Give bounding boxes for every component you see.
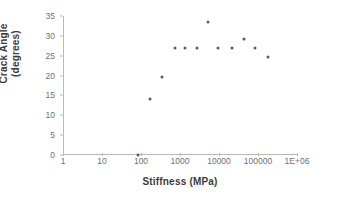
x-axis-tick-labels: 1101001000100001000001E+06 <box>0 157 338 173</box>
data-point <box>184 46 187 49</box>
data-point <box>243 38 246 41</box>
x-axis-title: Stiffness (MPa) <box>63 176 297 187</box>
scatter-chart-figure: 05101520253035 1101001000100001000001E+0… <box>0 0 338 207</box>
y-tick-mark <box>60 35 63 36</box>
x-tick-label: 10 <box>97 157 106 166</box>
x-tick-label: 1E+06 <box>285 157 310 166</box>
plot-area <box>63 16 297 155</box>
y-tick-label: 15 <box>46 91 55 100</box>
x-tick-label: 1 <box>61 157 66 166</box>
x-tick-label: 10000 <box>207 157 231 166</box>
x-tick-mark <box>297 153 298 156</box>
y-tick-label: 30 <box>46 32 55 41</box>
y-tick-label: 10 <box>46 111 55 120</box>
y-axis-title-line-1: Crack Angle <box>0 0 9 114</box>
x-tick-mark <box>258 153 259 156</box>
y-tick-mark <box>60 75 63 76</box>
x-tick-mark <box>141 153 142 156</box>
data-point <box>207 21 210 24</box>
data-point <box>230 46 233 49</box>
data-point <box>161 76 164 79</box>
x-tick-label: 1000 <box>171 157 190 166</box>
y-tick-label: 35 <box>46 12 55 21</box>
x-tick-label: 100 <box>134 157 148 166</box>
y-tick-mark <box>60 115 63 116</box>
data-point <box>254 46 257 49</box>
x-tick-mark <box>102 153 103 156</box>
data-point <box>173 46 176 49</box>
y-tick-label: 25 <box>46 51 55 60</box>
data-point <box>266 55 269 58</box>
y-tick-mark <box>60 135 63 136</box>
y-tick-label: 5 <box>50 131 55 140</box>
x-tick-mark <box>180 153 181 156</box>
data-point <box>148 97 151 100</box>
y-axis-title-line-2: (degrees) <box>9 0 21 114</box>
y-tick-mark <box>60 16 63 17</box>
y-tick-mark <box>60 55 63 56</box>
y-tick-label: 20 <box>46 71 55 80</box>
y-tick-mark <box>60 95 63 96</box>
data-point <box>217 46 220 49</box>
y-axis-title: Crack Angle (degrees) <box>0 0 21 114</box>
x-tick-mark <box>219 153 220 156</box>
x-tick-mark <box>63 153 64 156</box>
data-point <box>195 46 198 49</box>
x-tick-label: 100000 <box>244 157 272 166</box>
